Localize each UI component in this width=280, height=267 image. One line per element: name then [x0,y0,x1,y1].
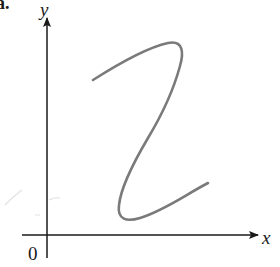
y-axis-label: y [40,0,48,19]
graph-figure: a. y x 0 [0,0,280,267]
panel-label: a. [0,0,10,12]
x-axis-label: x [262,228,270,247]
s-curve [93,43,208,220]
origin-label: 0 [28,244,38,263]
graph-canvas [0,0,280,267]
scan-artifact [5,190,22,205]
scan-artifact [49,198,60,200]
